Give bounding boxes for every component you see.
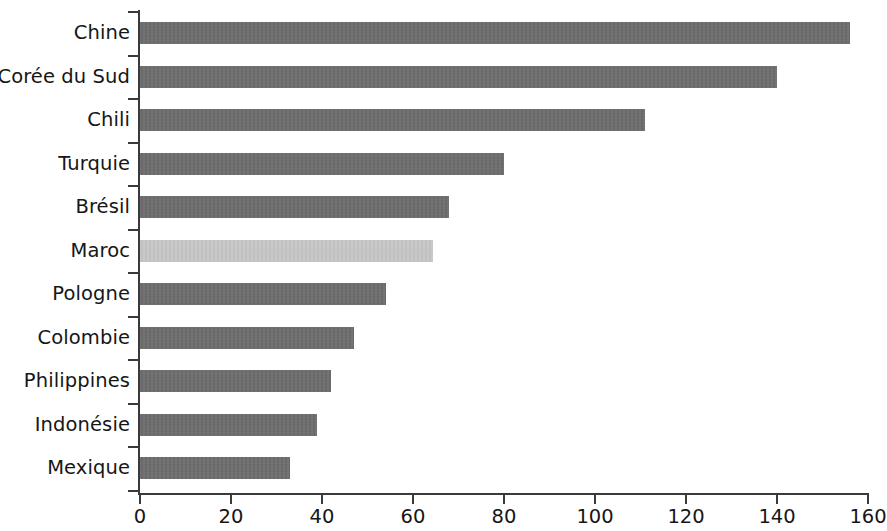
bar-pologne xyxy=(140,283,386,305)
bar-cor-e-du-sud xyxy=(140,66,777,88)
x-axis-tick xyxy=(503,493,505,504)
x-axis-tick xyxy=(685,493,687,504)
x-axis-tick-label-160: 160 xyxy=(849,505,886,528)
bar-row: Indonésie xyxy=(0,403,884,447)
bar-br-sil xyxy=(140,196,449,218)
x-axis-tick-label-0: 0 xyxy=(134,505,146,528)
y-axis-tick xyxy=(128,490,139,492)
y-axis-tick xyxy=(128,98,139,100)
y-axis-tick xyxy=(128,403,139,405)
y-axis-tick xyxy=(128,142,139,144)
bar-row: Mexique xyxy=(0,446,884,490)
category-label-colombie: Colombie xyxy=(38,316,130,360)
bar-row: Colombie xyxy=(0,316,884,360)
x-axis-tick xyxy=(867,493,869,504)
y-axis-tick xyxy=(128,229,139,231)
bar-chili xyxy=(140,109,645,131)
category-label-pologne: Pologne xyxy=(52,272,130,316)
bar-row: Brésil xyxy=(0,185,884,229)
category-label-chine: Chine xyxy=(74,11,130,55)
bar-maroc xyxy=(140,240,433,262)
bar-philippines xyxy=(140,370,331,392)
bar-row: Corée du Sud xyxy=(0,55,884,99)
category-label-indon-sie: Indonésie xyxy=(35,403,130,447)
x-axis-tick-label-40: 40 xyxy=(310,505,335,528)
y-axis-tick xyxy=(128,359,139,361)
x-axis-tick xyxy=(412,493,414,504)
y-axis-tick xyxy=(128,185,139,187)
x-axis-tick-label-140: 140 xyxy=(758,505,795,528)
category-label-mexique: Mexique xyxy=(47,446,130,490)
category-label-maroc: Maroc xyxy=(70,229,130,273)
bar-row: Pologne xyxy=(0,272,884,316)
x-axis-tick-label-100: 100 xyxy=(576,505,613,528)
bar-colombie xyxy=(140,327,354,349)
y-axis-tick xyxy=(128,316,139,318)
bar-row: Chine xyxy=(0,11,884,55)
y-axis-tick xyxy=(128,272,139,274)
category-label-chili: Chili xyxy=(87,98,130,142)
x-axis-tick xyxy=(321,493,323,504)
bar-row: Turquie xyxy=(0,142,884,186)
x-axis-tick-label-20: 20 xyxy=(219,505,244,528)
x-axis-tick-label-60: 60 xyxy=(401,505,426,528)
x-axis-tick-label-120: 120 xyxy=(667,505,704,528)
category-label-turquie: Turquie xyxy=(58,142,130,186)
bar-mexique xyxy=(140,457,290,479)
bar-row: Philippines xyxy=(0,359,884,403)
y-axis-tick xyxy=(128,11,139,13)
category-label-cor-e-du-sud: Corée du Sud xyxy=(0,55,130,99)
x-axis-tick-label-80: 80 xyxy=(492,505,517,528)
x-axis-tick xyxy=(594,493,596,504)
x-axis-tick xyxy=(139,493,141,504)
bar-indon-sie xyxy=(140,414,317,436)
bar-turquie xyxy=(140,153,504,175)
category-label-br-sil: Brésil xyxy=(75,185,130,229)
y-axis-tick xyxy=(128,55,139,57)
x-axis-tick xyxy=(776,493,778,504)
bar-row: Maroc xyxy=(0,229,884,273)
bar-row: Chili xyxy=(0,98,884,142)
x-axis-tick xyxy=(230,493,232,504)
y-axis-tick xyxy=(128,446,139,448)
category-label-philippines: Philippines xyxy=(24,359,130,403)
bar-chine xyxy=(140,22,850,44)
